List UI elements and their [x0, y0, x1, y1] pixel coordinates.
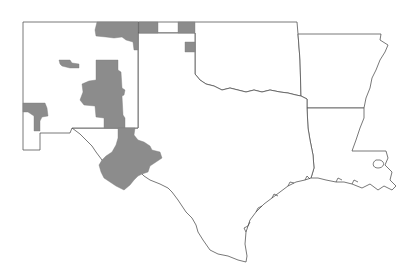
shaded-region-ok-panhandle-east — [178, 22, 195, 33]
map-container — [0, 0, 419, 271]
shaded-region-tx-panhandle-small — [185, 42, 195, 52]
state-louisiana — [307, 108, 396, 190]
state-arkansas — [298, 34, 388, 108]
region-map — [0, 0, 419, 271]
shaded-region-ok-panhandle-west — [139, 22, 158, 33]
